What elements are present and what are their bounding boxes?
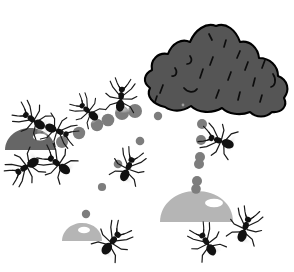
ant-bottom-right [224, 203, 267, 248]
diagonal-trail [82, 137, 145, 219]
trail-dot [98, 183, 106, 191]
pebble-light-center-highlight [205, 199, 223, 207]
trail-dot [191, 184, 201, 194]
trail-dot [136, 137, 145, 146]
trail-dot [73, 127, 85, 139]
large-rock [145, 25, 287, 117]
pebble-light-bottom-left-highlight [78, 227, 90, 233]
illustration-canvas [0, 0, 294, 272]
trail-dot [197, 119, 207, 129]
pebble-light-center-body [160, 191, 233, 222]
ant-bottom-center [183, 218, 229, 265]
trail-dot [196, 135, 206, 145]
vertical-right-trail [191, 119, 207, 194]
ant-lower-left-1 [0, 145, 48, 192]
ant-illustration-scene: · · · · · · · · · · · · · · · · · · · · … [0, 0, 294, 272]
trail-dot [154, 112, 162, 120]
ant-center [107, 143, 151, 188]
trail-dot [194, 159, 204, 169]
pebble-light-center [160, 191, 233, 222]
rock-body [145, 25, 287, 117]
trail-dot [102, 114, 115, 127]
pebble-light-bottom-left [62, 223, 102, 241]
rock-speck [182, 104, 185, 107]
trail-dot [82, 210, 90, 218]
